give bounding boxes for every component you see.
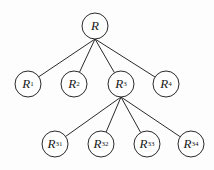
node-label-base: R <box>94 136 102 152</box>
edge-r3-r33 <box>121 97 141 133</box>
node-label-r34: R34 <box>178 131 204 157</box>
node-label-subscript: 33 <box>147 140 154 148</box>
node-label-r31: R31 <box>42 131 68 157</box>
node-label-r33: R33 <box>134 131 160 157</box>
node-label-subscript: 4 <box>168 80 172 88</box>
node-label-r: R <box>82 13 108 39</box>
node-label-r32: R32 <box>88 131 114 157</box>
node-label-subscript: 32 <box>101 140 108 148</box>
node-label-subscript: 3 <box>123 80 127 88</box>
tree-diagram: RR1R2R3R4R31R32R33R34 <box>0 0 214 170</box>
node-label-r4: R4 <box>153 71 179 97</box>
node-label-base: R <box>48 136 56 152</box>
node-label-subscript: 2 <box>76 80 80 88</box>
node-label-base: R <box>160 76 168 92</box>
node-label-subscript: 34 <box>191 140 198 148</box>
node-label-base: R <box>91 18 99 34</box>
node-label-base: R <box>115 76 123 92</box>
edge-r-r3 <box>95 39 114 73</box>
node-label-subscript: 31 <box>55 140 62 148</box>
node-label-subscript: 1 <box>30 80 34 88</box>
node-label-base: R <box>22 76 30 92</box>
node-label-r2: R2 <box>61 71 87 97</box>
node-label-r1: R1 <box>15 71 41 97</box>
node-label-base: R <box>68 76 76 92</box>
node-label-base: R <box>140 136 148 152</box>
node-label-r3: R3 <box>108 71 134 97</box>
node-label-base: R <box>184 136 192 152</box>
